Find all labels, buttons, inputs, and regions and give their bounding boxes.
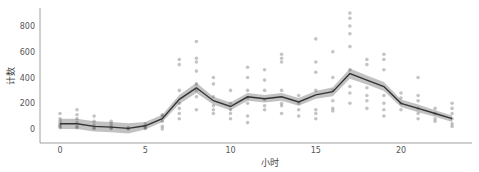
x-axis-label: 小时 xyxy=(261,157,279,168)
y-tick-label: 200 xyxy=(20,99,35,108)
y-axis-ticks: 0200400600800 xyxy=(20,22,35,134)
x-tick-label: 20 xyxy=(396,146,406,155)
confidence-band xyxy=(60,69,452,134)
scatter-points xyxy=(58,11,454,131)
x-tick-label: 15 xyxy=(311,146,321,155)
x-tick-label: 5 xyxy=(143,146,148,155)
y-tick-label: 400 xyxy=(20,74,35,83)
y-tick-label: 600 xyxy=(20,48,35,57)
y-axis-label: 计数 xyxy=(5,67,16,85)
x-tick-label: 0 xyxy=(57,146,62,155)
y-tick-label: 800 xyxy=(20,22,35,31)
chart: 05101520 0200400600800 小时 计数 xyxy=(0,0,479,172)
x-axis-ticks: 05101520 xyxy=(57,146,406,155)
y-tick-label: 0 xyxy=(30,125,35,134)
x-tick-label: 10 xyxy=(225,146,235,155)
